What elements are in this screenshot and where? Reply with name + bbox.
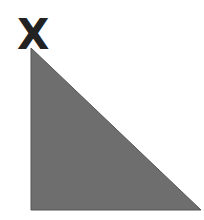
right-triangle	[31, 48, 201, 210]
diagram-canvas: X	[0, 0, 204, 220]
vertex-label-x: X	[17, 14, 49, 56]
